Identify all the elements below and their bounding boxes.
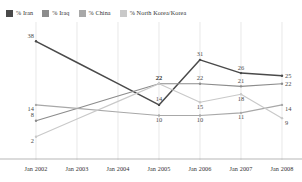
point-label: 14 xyxy=(285,105,292,112)
legend-swatch-north-korea xyxy=(120,10,127,17)
legend-label-iraq: % Iraq xyxy=(52,10,69,16)
legend-label-north-korea: % North Korea/Korea xyxy=(130,10,187,16)
point-label: 10 xyxy=(197,116,203,123)
x-tick-label: Jan 2005 xyxy=(148,165,171,172)
point-label: 22 xyxy=(197,74,203,81)
point-label: 15 xyxy=(197,103,203,110)
point-label: 18 xyxy=(238,95,244,102)
point-label: 26 xyxy=(238,64,244,71)
point-label: 14 xyxy=(28,105,35,112)
legend-item-north-korea: % North Korea/Korea xyxy=(120,10,187,17)
legend-item-iraq: % Iraq xyxy=(42,10,69,17)
data-point xyxy=(158,104,160,106)
data-point xyxy=(281,83,283,85)
data-point xyxy=(240,85,242,87)
data-point xyxy=(35,136,37,138)
data-point xyxy=(281,75,283,77)
legend-item-china: % China xyxy=(79,10,111,17)
point-label: 22 xyxy=(156,74,162,81)
point-label: 11 xyxy=(238,113,244,120)
x-tick-label: Jan 2008 xyxy=(271,165,294,172)
point-label: 14 xyxy=(156,95,163,102)
line-chart: % Iran % Iraq % China % North Korea/Kore… xyxy=(0,0,302,182)
data-point xyxy=(35,120,37,122)
legend-label-china: % China xyxy=(89,10,111,16)
data-point xyxy=(35,104,37,106)
legend-swatch-china xyxy=(79,10,86,17)
legend-label-iran: % Iran xyxy=(16,10,33,16)
data-point xyxy=(199,83,201,85)
gridlines xyxy=(36,22,282,160)
data-point xyxy=(35,40,37,42)
point-label: 2 xyxy=(31,137,34,144)
point-label: 21 xyxy=(238,77,244,84)
point-label: 9 xyxy=(285,119,288,126)
data-point xyxy=(158,83,160,85)
data-point xyxy=(199,59,201,61)
data-point xyxy=(281,104,283,106)
x-tick-label: Jan 2004 xyxy=(107,165,130,172)
legend-item-iran: % Iran xyxy=(6,10,33,17)
series-labels: 3814312625822222122141010111422215189 xyxy=(28,32,293,144)
plot-svg: 3814312625822222122141010111422215189 xyxy=(0,22,302,160)
legend-swatch-iraq xyxy=(42,10,49,17)
point-label: 25 xyxy=(285,72,291,79)
x-tick-label: Jan 2007 xyxy=(230,165,253,172)
point-label: 38 xyxy=(28,32,34,39)
point-label: 31 xyxy=(197,50,203,57)
x-axis-ticks: Jan 2002Jan 2003Jan 2004Jan 2005Jan 2006… xyxy=(0,163,302,177)
x-tick-label: Jan 2003 xyxy=(66,165,89,172)
data-point xyxy=(240,72,242,74)
x-tick-label: Jan 2002 xyxy=(25,165,48,172)
legend-swatch-iran xyxy=(6,10,13,17)
plot-area: 3814312625822222122141010111422215189 xyxy=(0,22,302,160)
point-label: 10 xyxy=(156,116,162,123)
chart-legend: % Iran % Iraq % China % North Korea/Kore… xyxy=(0,4,302,22)
x-tick-label: Jan 2006 xyxy=(189,165,212,172)
data-point xyxy=(281,117,283,119)
point-label: 22 xyxy=(285,80,291,87)
